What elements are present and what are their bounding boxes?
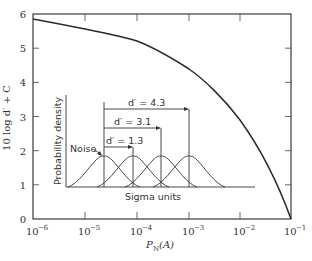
y-ticks-left (33, 48, 39, 185)
svg-text:10: 10 (233, 226, 246, 237)
noise-label: Noise (70, 143, 97, 154)
x-ticks-bottom (85, 212, 240, 219)
inset-diagram: d′ = 1.3 d′ = 3.1 d′ = 4.3 Noise Probabi… (52, 95, 255, 202)
x-ticks-top (85, 14, 240, 21)
svg-text:−1: −1 (296, 224, 306, 232)
y-axis-label: 10 log d′ + C (1, 85, 12, 151)
y-tick-5: 5 (20, 43, 26, 54)
y-tick-3: 3 (20, 112, 26, 123)
plot-frame (33, 14, 291, 219)
d1-label: d′ = 1.3 (106, 135, 143, 146)
x-tick-1e-2: 10 −2 (233, 224, 255, 237)
d2-label: d′ = 3.1 (114, 116, 151, 127)
y-tick-2: 2 (20, 146, 26, 157)
svg-text:10: 10 (182, 226, 195, 237)
svg-text:10: 10 (284, 226, 297, 237)
y-tick-labels: 0 1 2 3 4 5 6 (20, 9, 26, 225)
x-axis-label: P N (A) (145, 239, 174, 253)
inset-y-label: Probability density (52, 97, 63, 185)
svg-text:−3: −3 (194, 224, 204, 232)
svg-text:10: 10 (26, 226, 39, 237)
svg-text:(A): (A) (159, 239, 174, 250)
y-tick-4: 4 (20, 77, 26, 88)
y-tick-1: 1 (20, 180, 26, 191)
svg-text:−5: −5 (90, 224, 100, 232)
x-tick-labels: 10 −6 10 −5 10 −4 10 −3 10 −2 10 −1 (26, 224, 306, 237)
chart: 0 1 2 3 4 5 6 10 −6 10 −5 10 −4 10 −3 10… (0, 0, 312, 261)
svg-text:−4: −4 (142, 224, 153, 232)
inset-x-label: Sigma units (125, 191, 181, 202)
svg-text:−2: −2 (245, 224, 255, 232)
d3-label: d′ = 4.3 (128, 97, 165, 108)
d2-arrowhead-icon (156, 126, 161, 130)
svg-text:−6: −6 (38, 224, 49, 232)
y-ticks-right (285, 48, 291, 185)
d3-arrowhead-icon (184, 107, 189, 111)
x-tick-1e-1: 10 −1 (284, 224, 306, 237)
svg-text:P: P (145, 239, 153, 250)
y-tick-6: 6 (20, 9, 26, 20)
x-tick-1e-5: 10 −5 (78, 224, 100, 237)
x-tick-1e-6: 10 −6 (26, 224, 49, 237)
x-tick-1e-4: 10 −4 (130, 224, 153, 237)
svg-text:10: 10 (78, 226, 91, 237)
svg-text:10: 10 (130, 226, 143, 237)
x-tick-1e-3: 10 −3 (182, 224, 204, 237)
y-tick-0: 0 (20, 214, 26, 225)
main-curve (33, 19, 291, 219)
